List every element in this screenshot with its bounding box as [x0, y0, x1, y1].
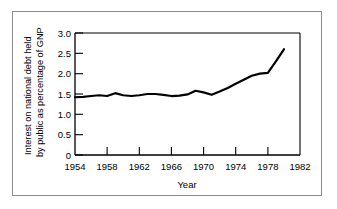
line-chart: Interest on national debt held by public… — [0, 0, 337, 209]
x-tick-label-1974: 1974 — [225, 161, 246, 172]
y-axis-tick-labels: 3.0 2.5 2.0 1.5 1.0 0.5 0 — [58, 28, 71, 161]
y-tick-label-1.0: 1.0 — [58, 109, 71, 120]
y-tick-label-2.5: 2.5 — [58, 48, 71, 59]
x-tick-label-1958: 1958 — [97, 161, 118, 172]
y-axis-label-line1: Interest on national debt held — [23, 36, 33, 155]
y-tick-label-1.5: 1.5 — [58, 89, 71, 100]
y-tick-label-0: 0 — [66, 150, 71, 161]
figure: Interest on national debt held by public… — [0, 0, 337, 209]
x-axis-title: Year — [177, 179, 196, 190]
y-tick-label-3.0: 3.0 — [58, 28, 71, 39]
x-tick-label-1966: 1966 — [161, 161, 182, 172]
y-axis-ticks — [75, 33, 83, 155]
x-tick-label-1970: 1970 — [193, 161, 214, 172]
x-tick-label-1982: 1982 — [289, 161, 310, 172]
x-tick-label-1978: 1978 — [257, 161, 278, 172]
data-series-line — [75, 49, 284, 97]
x-tick-label-1954: 1954 — [64, 161, 85, 172]
x-axis-tick-labels: 1954 1958 1962 1966 1970 1974 1978 1982 — [64, 161, 310, 172]
y-axis-label-line2: by public as percentage of GNP — [35, 27, 45, 157]
y-tick-label-0.5: 0.5 — [58, 129, 71, 140]
x-tick-label-1962: 1962 — [129, 161, 150, 172]
x-axis-ticks — [107, 147, 268, 155]
y-axis-label: Interest on national debt held by public… — [23, 27, 45, 157]
y-tick-label-2.0: 2.0 — [58, 68, 71, 79]
